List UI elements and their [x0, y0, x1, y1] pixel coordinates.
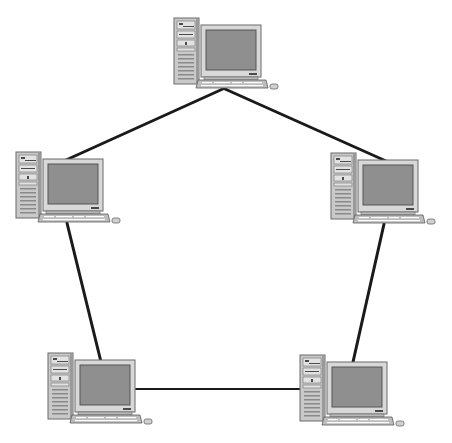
- desktop-computer-icon-right: [331, 153, 435, 224]
- desktop-computer-icon-left: [16, 152, 120, 223]
- ring-network-diagram: [0, 0, 452, 443]
- link-top-left: [66, 88, 225, 160]
- link-left-bottom-left: [67, 223, 101, 362]
- desktop-computer-icon-top: [174, 18, 278, 89]
- desktop-computer-icon-bottom-right: [300, 355, 404, 426]
- link-top-right: [225, 89, 386, 161]
- link-right-bottom-right: [353, 224, 384, 362]
